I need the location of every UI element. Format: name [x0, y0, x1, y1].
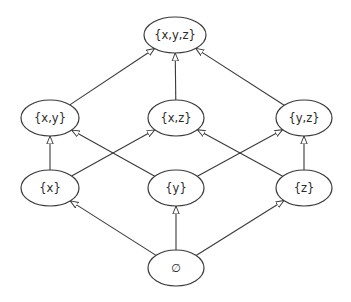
node-label: {x,z} — [160, 111, 191, 125]
node-label: ∅ — [171, 261, 181, 275]
node-label: {y,z} — [288, 111, 319, 125]
node-label: {x} — [39, 181, 60, 195]
node-yz: {y,z} — [276, 100, 332, 136]
hasse-diagram: {x,y,z}{x,y}{x,z}{y,z}{x}{y}{z}∅ — [0, 0, 351, 302]
node-xy: {x,y} — [21, 100, 79, 136]
node-label: {x,y,z} — [154, 28, 196, 42]
node-empty: ∅ — [148, 250, 204, 286]
edge-xz-to-xyz — [175, 53, 176, 100]
node-xz: {x,z} — [148, 100, 204, 136]
edges-layer — [50, 48, 304, 255]
node-x: {x} — [21, 170, 79, 206]
edge-empty-to-z — [196, 201, 284, 256]
node-label: {x,y} — [34, 111, 66, 125]
edge-xy-to-xyz — [70, 49, 155, 105]
node-label: {y} — [165, 181, 186, 195]
node-y: {y} — [148, 170, 204, 206]
node-label: {z} — [294, 181, 315, 195]
node-z: {z} — [276, 170, 332, 206]
node-xyz: {x,y,z} — [144, 17, 206, 53]
edge-empty-to-x — [70, 201, 156, 255]
edge-yz-to-xyz — [196, 48, 284, 105]
